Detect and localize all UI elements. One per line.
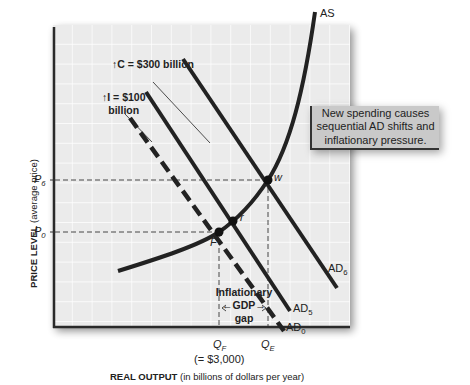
ad6-sub: 6: [343, 268, 347, 277]
delta-i-line1: ↑I = $100: [102, 91, 146, 104]
gap-line2: ←GDP→: [212, 299, 276, 312]
ad0-sub: 0: [301, 327, 305, 336]
gdp-gap-label: Inflationary ←GDP→ gap: [212, 286, 276, 325]
y-axis-label: PRICE LEVEL (average price): [28, 139, 39, 309]
y-axis-label-bold: PRICE LEVEL: [28, 226, 39, 288]
qe-label: QE: [261, 338, 275, 353]
qf-sub: F: [222, 344, 227, 353]
ad5-sub: 5: [308, 308, 312, 317]
gap-line1: Inflationary: [212, 286, 276, 299]
delta-c-label: ↑C = $300 billion: [112, 58, 194, 70]
qe-sub: E: [270, 344, 275, 353]
delta-i-line2: billion: [102, 104, 146, 117]
ad6-label: AD6: [328, 262, 348, 277]
point-w: [264, 176, 273, 185]
annotation-callout: New spending causes sequential AD shifts…: [310, 106, 439, 150]
x-axis-label-rest: (in billions of dollars per year): [177, 371, 304, 382]
point-w-label: w: [274, 171, 282, 183]
y-axis-label-rest: (average price): [28, 159, 39, 226]
ad0-text: AD: [286, 321, 301, 333]
ad6-text: AD: [328, 262, 343, 274]
ad5-label: AD5: [293, 302, 313, 317]
qe-text: Q: [261, 338, 270, 350]
gap-line3: gap: [212, 312, 276, 325]
x-axis-label-bold: REAL OUTPUT: [110, 371, 177, 382]
p0-sub: 0: [41, 231, 45, 240]
x-axis-label: REAL OUTPUT (in billions of dollars per …: [110, 371, 304, 382]
qf-text: Q: [213, 338, 222, 350]
qf-label: QF: [213, 338, 226, 353]
ad5-text: AD: [293, 302, 308, 314]
p6-sub: 6: [41, 179, 45, 188]
as-label: AS: [320, 7, 335, 19]
point-r-label: r: [240, 211, 244, 223]
callout-text: New spending causes sequential AD shifts…: [316, 107, 435, 148]
delta-i-label: ↑I = $100 billion: [102, 91, 146, 117]
qf-value-label: (= $3,000): [194, 353, 244, 365]
ad0-label: AD0: [286, 321, 306, 336]
chart-canvas: [0, 0, 470, 385]
point-f-label: F: [210, 236, 217, 248]
point-r: [229, 217, 238, 226]
